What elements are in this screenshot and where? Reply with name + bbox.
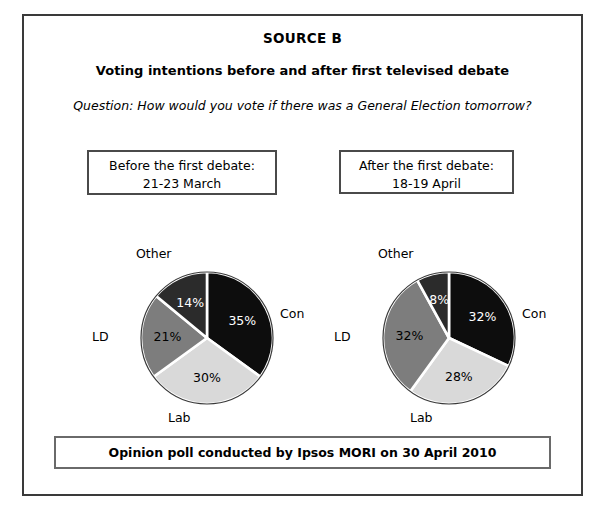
pie-value-other: 8%: [429, 292, 449, 307]
pie-value-ld: 21%: [154, 329, 182, 344]
source-footer-text: Opinion poll conducted by Ipsos MORI on …: [109, 445, 497, 460]
source-card: SOURCE B Voting intentions before and af…: [22, 14, 583, 496]
pie-before-label-con: Con: [280, 306, 304, 321]
source-question: Question: How would you vote if there wa…: [24, 98, 581, 113]
pie-value-con: 32%: [469, 309, 497, 324]
pie-chart-before: Other Con Lab LD 35%30%21%14%: [84, 244, 314, 439]
period-caption-after-line2: 18-19 April: [341, 175, 512, 193]
pie-chart-after: Other Con Lab LD 32%28%32%8%: [326, 244, 556, 439]
period-caption-after-line1: After the first debate:: [341, 157, 512, 175]
period-caption-before-line2: 21-23 March: [89, 175, 275, 193]
source-footer-box: Opinion poll conducted by Ipsos MORI on …: [54, 436, 551, 469]
source-title: SOURCE B: [24, 30, 581, 46]
pie-before-label-ld: LD: [92, 329, 109, 344]
pie-before-svg: 35%30%21%14%: [140, 271, 274, 405]
period-caption-before: Before the first debate: 21-23 March: [87, 150, 277, 195]
pie-before-label-other: Other: [136, 246, 172, 261]
pie-value-con: 35%: [228, 313, 256, 328]
pie-after-label-other: Other: [378, 246, 414, 261]
pie-after-canvas: 32%28%32%8%: [382, 271, 516, 405]
pie-value-ld: 32%: [396, 328, 424, 343]
pie-value-lab: 30%: [193, 370, 221, 385]
period-caption-before-line1: Before the first debate:: [89, 157, 275, 175]
source-subtitle: Voting intentions before and after first…: [24, 63, 581, 78]
pie-after-label-lab: Lab: [410, 410, 433, 425]
pie-value-lab: 28%: [445, 369, 473, 384]
period-caption-after: After the first debate: 18-19 April: [339, 150, 514, 194]
pie-after-svg: 32%28%32%8%: [382, 271, 516, 405]
pie-before-label-lab: Lab: [168, 410, 191, 425]
pie-after-label-ld: LD: [334, 329, 351, 344]
pie-before-canvas: 35%30%21%14%: [140, 271, 274, 405]
pie-after-label-con: Con: [522, 306, 546, 321]
pie-value-other: 14%: [176, 295, 204, 310]
